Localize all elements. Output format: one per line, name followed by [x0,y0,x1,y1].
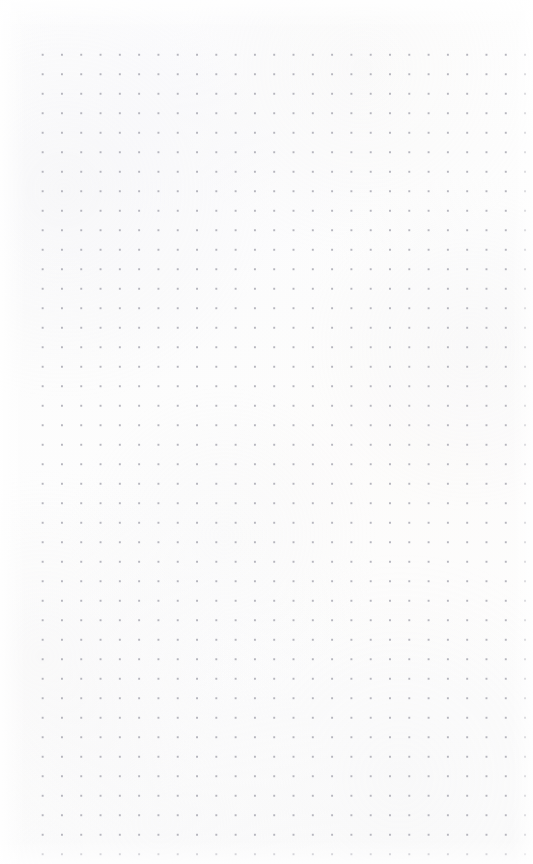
dot-grid-pattern [32,44,533,863]
page-edge-sheen [0,0,533,864]
dot-grid-page [0,0,533,864]
paper-background [0,0,533,864]
paper-texture-overlay [0,0,533,864]
